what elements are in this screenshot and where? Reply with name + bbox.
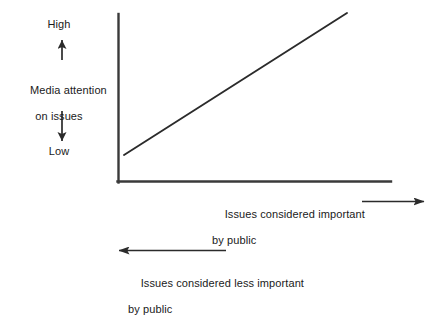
caption-issues-important-line2: by public	[212, 234, 365, 247]
caption-issues-less-important: Issues considered less important by publ…	[128, 264, 304, 319]
caption-issues-important-line1: Issues considered important	[225, 208, 365, 220]
y-axis-title: Media attention on issues	[0, 71, 118, 149]
caption-issues-important: Issues considered important by public	[212, 195, 365, 273]
caption-issues-less-important-line1: Issues considered less important	[141, 277, 304, 289]
y-axis-title-line1: Media attention	[30, 84, 107, 96]
trend-line	[124, 13, 347, 155]
y-axis-low-label: Low	[0, 145, 118, 158]
y-axis-high-label: High	[0, 18, 118, 31]
caption-issues-less-important-line2: by public	[128, 303, 304, 316]
y-axis-label-group: High Media attention on issues Low	[0, 18, 118, 163]
y-axis-title-line2: on issues	[0, 110, 118, 123]
